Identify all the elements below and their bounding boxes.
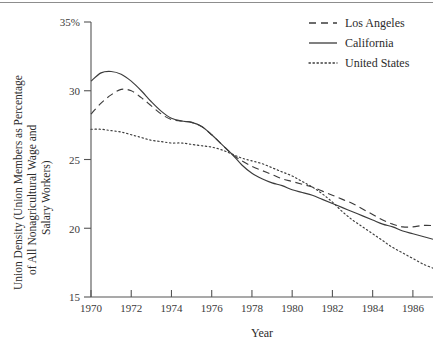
x-tick-label-1976: 1976 xyxy=(201,302,224,314)
series-line-united-states xyxy=(91,129,433,268)
chart-legend: Los Angeles California United States xyxy=(309,16,410,70)
legend-entry-california: California xyxy=(309,36,394,50)
y-axis-label-line-1: Union Density (Union Members as Percenta… xyxy=(12,75,25,290)
legend-entry-los-angeles: Los Angeles xyxy=(309,16,405,30)
legend-label-united-states: United States xyxy=(345,56,410,70)
data-series-group xyxy=(91,71,433,268)
x-tick-label-1984: 1984 xyxy=(362,302,385,314)
x-tick-label-1978: 1978 xyxy=(241,302,264,314)
series-line-los-angeles xyxy=(91,89,433,227)
y-axis: 35% 30 25 20 15 xyxy=(60,16,91,303)
legend-label-los-angeles: Los Angeles xyxy=(345,16,405,30)
y-axis-label-line-2: of All Nonagricultural Wage and xyxy=(26,125,39,275)
y-axis-label-group: Union Density (Union Members as Percenta… xyxy=(12,75,53,290)
y-tick-label-35: 35% xyxy=(60,16,80,28)
x-axis-title: Year xyxy=(251,326,273,340)
y-tick-label-25: 25 xyxy=(69,154,81,166)
x-axis: 197019721974197619781980198219841986 Yea… xyxy=(80,290,433,340)
y-axis-label-line-3: Salary Workers) xyxy=(40,160,53,235)
legend-label-california: California xyxy=(345,36,394,50)
x-tick-label-1980: 1980 xyxy=(281,302,304,314)
x-tick-marks xyxy=(91,290,413,297)
y-tick-label-15: 15 xyxy=(69,291,81,303)
legend-entry-united-states: United States xyxy=(309,56,410,70)
union-density-chart-figure: Union Density (Union Members as Percenta… xyxy=(0,0,433,351)
x-tick-label-1974: 1974 xyxy=(160,302,183,314)
x-tick-label-1982: 1982 xyxy=(321,302,343,314)
x-tick-label-1972: 1972 xyxy=(120,302,142,314)
y-tick-label-30: 30 xyxy=(69,85,81,97)
y-tick-label-20: 20 xyxy=(69,223,81,235)
x-tick-label-1970: 1970 xyxy=(80,302,103,314)
x-tick-labels: 197019721974197619781980198219841986 xyxy=(80,302,424,314)
x-tick-label-1986: 1986 xyxy=(402,302,425,314)
chart-canvas: Union Density (Union Members as Percenta… xyxy=(0,0,433,351)
series-line-california xyxy=(91,71,433,239)
